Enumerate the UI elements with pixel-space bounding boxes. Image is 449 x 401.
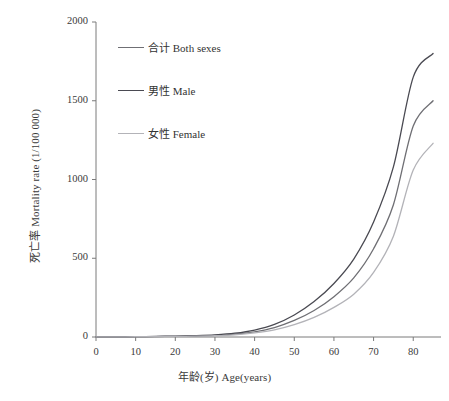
- x-tick-label: 60: [319, 346, 349, 357]
- x-tick-label: 70: [359, 346, 389, 357]
- legend-item-female[interactable]: 女性 Female: [118, 126, 221, 140]
- x-tick-label: 0: [81, 346, 111, 357]
- x-tick-label: 20: [160, 346, 190, 357]
- x-tick-label: 80: [398, 346, 428, 357]
- mortality-rate-line-chart: 0500100015002000 01020304050607080 死亡率 M…: [0, 0, 449, 401]
- x-axis-ticks: [96, 337, 413, 341]
- y-tick-label: 1000: [42, 173, 88, 184]
- series-line-female: [96, 143, 433, 337]
- y-tick-label: 1500: [42, 94, 88, 105]
- y-axis-ticks: [92, 22, 96, 337]
- y-axis-title: 死亡率 Mortality rate (1/100 000): [26, 56, 42, 316]
- x-tick-label: 10: [121, 346, 151, 357]
- legend-label-female: 女性 Female: [148, 125, 205, 141]
- y-tick-label: 2000: [42, 15, 88, 26]
- chart-legend: 合计 Both sexes 男性 Male 女性 Female: [118, 40, 221, 169]
- x-axis-title: 年龄(岁) Age(years): [0, 368, 449, 384]
- y-tick-label: 500: [42, 251, 88, 262]
- y-tick-label: 0: [42, 330, 88, 341]
- x-tick-label: 50: [279, 346, 309, 357]
- x-tick-label: 40: [240, 346, 270, 357]
- legend-color-swatch-female: [118, 133, 144, 134]
- x-tick-label: 30: [200, 346, 230, 357]
- legend-color-swatch-male: [118, 90, 144, 91]
- legend-item-male[interactable]: 男性 Male: [118, 83, 221, 97]
- legend-color-swatch-both-sexes: [118, 47, 144, 48]
- legend-label-male: 男性 Male: [148, 82, 195, 98]
- legend-item-both-sexes[interactable]: 合计 Both sexes: [118, 40, 221, 54]
- legend-label-both-sexes: 合计 Both sexes: [148, 39, 221, 55]
